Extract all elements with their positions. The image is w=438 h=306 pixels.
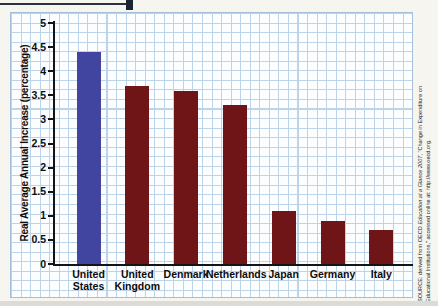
y-tick-label: 3 [18, 113, 46, 125]
y-tick-mark [48, 167, 53, 169]
cropped-title-rule [0, 3, 131, 5]
cropped-title-rule-end [126, 0, 133, 10]
source-citation-line2: Educational Institutions,” accessed onli… [425, 86, 433, 302]
y-tick-label: 0.5 [18, 233, 46, 245]
y-tick-mark [48, 215, 53, 217]
x-axis-line [53, 264, 413, 266]
y-tick-label: 4.5 [18, 41, 46, 53]
page-edge-strip [0, 301, 438, 306]
source-citation: SOURCE: derived from OECD Education at a… [417, 86, 432, 302]
y-tick-mark [48, 46, 53, 48]
bar [369, 230, 393, 264]
y-tick-label: 0 [18, 258, 46, 270]
y-tick-label: 3.5 [18, 89, 46, 101]
y-tick-label: 1 [18, 209, 46, 221]
bar [174, 91, 198, 265]
bar [223, 105, 247, 264]
x-axis-label: Italy [352, 269, 410, 281]
y-tick-label: 1.5 [18, 185, 46, 197]
y-tick-mark [48, 143, 53, 145]
y-tick-label: 4 [18, 65, 46, 77]
plot-area: Real Average Annual Increase (percentage… [11, 13, 412, 297]
source-citation-title: Education at a Glance 2007 [417, 156, 423, 225]
bar [272, 211, 296, 264]
y-tick-mark [48, 70, 53, 72]
y-tick-mark [48, 118, 53, 120]
source-citation-line1: SOURCE: derived from OECD Education at a… [417, 86, 425, 302]
y-tick-label: 2 [18, 161, 46, 173]
y-tick-mark [48, 239, 53, 241]
y-axis-line [53, 21, 55, 266]
graph-paper: Real Average Annual Increase (percentage… [10, 12, 413, 298]
bar [125, 86, 149, 264]
y-tick-mark [48, 94, 53, 96]
y-tick-label: 2.5 [18, 137, 46, 149]
bar [77, 52, 101, 264]
y-tick-mark [48, 263, 53, 265]
bar [321, 221, 345, 264]
y-tick-mark [48, 191, 53, 193]
y-tick-mark [48, 22, 53, 24]
y-tick-label: 5 [18, 17, 46, 29]
